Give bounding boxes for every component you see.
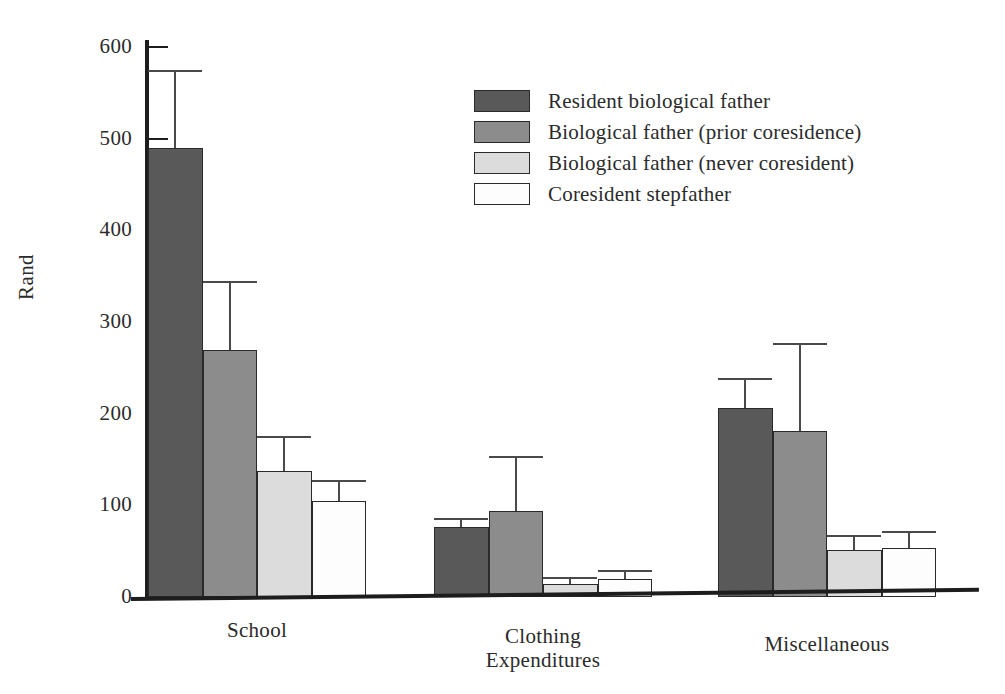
legend-swatch-icon-3 <box>474 152 530 174</box>
x-label-clothing: Clothing <box>505 624 581 649</box>
bar-school-series-2 <box>203 350 258 598</box>
error-bar-cap-school-4 <box>312 480 366 482</box>
legend-item-4: Coresident stepfather <box>474 179 894 209</box>
error-bar-stem-miscellaneous-2 <box>799 343 801 431</box>
bar-miscellaneous-series-2 <box>773 431 828 597</box>
legend-label-4: Coresident stepfather <box>548 183 731 205</box>
error-bar-cap-clothing-4 <box>598 570 652 572</box>
legend: Resident biological fatherBiological fat… <box>474 86 894 210</box>
error-bar-cap-clothing-3 <box>543 577 597 579</box>
bar-school-series-3 <box>257 471 312 597</box>
legend-item-1: Resident biological father <box>474 86 894 116</box>
bar-chart-figure: Rand 0100200300400500600 SchoolClothingM… <box>0 0 1005 694</box>
x-label-school: School <box>227 618 287 643</box>
legend-label-1: Resident biological father <box>548 90 770 112</box>
bar-school-series-1 <box>148 148 203 597</box>
x-axis-title: Expenditures <box>486 648 600 673</box>
legend-item-3: Biological father (never coresident) <box>474 148 894 178</box>
error-bar-stem-school-2 <box>229 281 231 350</box>
legend-item-2: Biological father (prior coresidence) <box>474 117 894 147</box>
error-bar-cap-miscellaneous-3 <box>827 535 881 537</box>
error-bar-stem-school-4 <box>338 480 340 501</box>
legend-swatch-icon-1 <box>474 90 530 112</box>
error-bar-stem-school-1 <box>174 70 176 148</box>
error-bar-cap-clothing-1 <box>434 518 488 520</box>
bar-miscellaneous-series-1 <box>718 408 773 597</box>
bar-clothing-series-1 <box>434 527 489 597</box>
error-bar-cap-clothing-2 <box>489 456 543 458</box>
error-bar-cap-school-2 <box>203 281 257 283</box>
legend-label-3: Biological father (never coresident) <box>548 152 854 174</box>
legend-label-2: Biological father (prior coresidence) <box>548 121 862 143</box>
error-bar-cap-school-3 <box>257 436 311 438</box>
x-label-miscellaneous: Miscellaneous <box>764 632 889 657</box>
bar-clothing-series-2 <box>489 511 544 597</box>
error-bar-stem-clothing-2 <box>515 456 517 511</box>
bar-school-series-4 <box>312 501 367 597</box>
error-bar-stem-miscellaneous-4 <box>908 531 910 548</box>
error-bar-cap-miscellaneous-1 <box>718 378 772 380</box>
error-bar-stem-miscellaneous-3 <box>853 535 855 551</box>
error-bar-stem-miscellaneous-1 <box>744 378 746 408</box>
error-bar-stem-school-3 <box>283 436 285 472</box>
legend-swatch-icon-4 <box>474 183 530 205</box>
error-bar-cap-miscellaneous-2 <box>773 343 827 345</box>
error-bar-cap-miscellaneous-4 <box>882 531 936 533</box>
legend-swatch-icon-2 <box>474 121 530 143</box>
error-bar-cap-school-1 <box>148 70 202 72</box>
